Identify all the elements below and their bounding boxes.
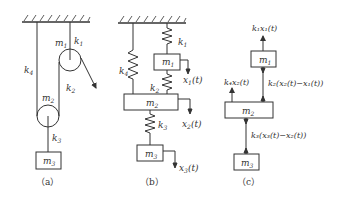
force-k3-arrowhead-down <box>244 119 248 124</box>
label-m3: m3 <box>241 158 254 169</box>
label-force-k4x2: k₄x₂(t) <box>224 78 249 87</box>
label-k3: k3 <box>52 133 61 144</box>
x2-arrowhead <box>188 109 192 114</box>
caption-c: （c） <box>237 177 260 187</box>
label-k4: k4 <box>24 65 33 76</box>
label-k4: k4 <box>119 66 128 77</box>
pull-arrow <box>81 58 96 88</box>
label-m1: m1 <box>259 55 271 66</box>
caption-a: （a） <box>36 177 59 187</box>
label-m3: m3 <box>43 156 56 167</box>
panel-c-labels: k₁x₁(t) m1 k₂(x₂(t)−x₁(t)) k₄x₂(t) m2 k₃… <box>224 24 323 187</box>
label-k1: k1 <box>178 37 187 48</box>
ceiling-hatch <box>24 15 90 21</box>
label-force-k2: k₂(x₂(t)−x₁(t)) <box>268 79 323 88</box>
force-k3-arrowhead-up <box>244 148 248 153</box>
force-k2-arrowhead-down <box>261 68 265 73</box>
label-k3: k3 <box>158 120 167 131</box>
panel-a-labels: m1 k1 k4 k2 m2 k3 m3 （a） <box>24 36 83 187</box>
caption-b: （b） <box>140 177 164 187</box>
spring-k3 <box>145 110 155 145</box>
label-m2: m2 <box>242 106 255 117</box>
label-k2: k2 <box>150 83 159 94</box>
label-x1: x1(t) <box>183 75 203 86</box>
label-m2: m2 <box>146 98 159 109</box>
panel-c <box>225 36 276 170</box>
label-m1: m1 <box>162 57 174 68</box>
label-x3: x3(t) <box>179 163 199 174</box>
spring-k1 <box>162 23 172 54</box>
ceiling-hatch <box>120 16 186 22</box>
mechanical-system-diagram: m1 k1 k4 k2 m2 k3 m3 （a） <box>0 0 347 199</box>
label-k1: k1 <box>74 36 83 47</box>
x3-arrowhead <box>173 163 177 168</box>
label-k2: k2 <box>66 83 75 94</box>
label-m1: m1 <box>55 38 67 49</box>
force-k2-arrowhead-up <box>261 96 265 101</box>
spring-k4 <box>128 23 138 94</box>
label-force-k1x1: k₁x₁(t) <box>252 24 277 33</box>
spring-k2 <box>162 70 172 94</box>
label-x2: x2(t) <box>182 119 202 130</box>
x1-arrowhead <box>186 69 190 74</box>
label-force-k3: k₃(x₃(t)−x₂(t)) <box>251 131 306 140</box>
label-m2: m2 <box>42 93 55 104</box>
label-m3: m3 <box>145 149 158 160</box>
